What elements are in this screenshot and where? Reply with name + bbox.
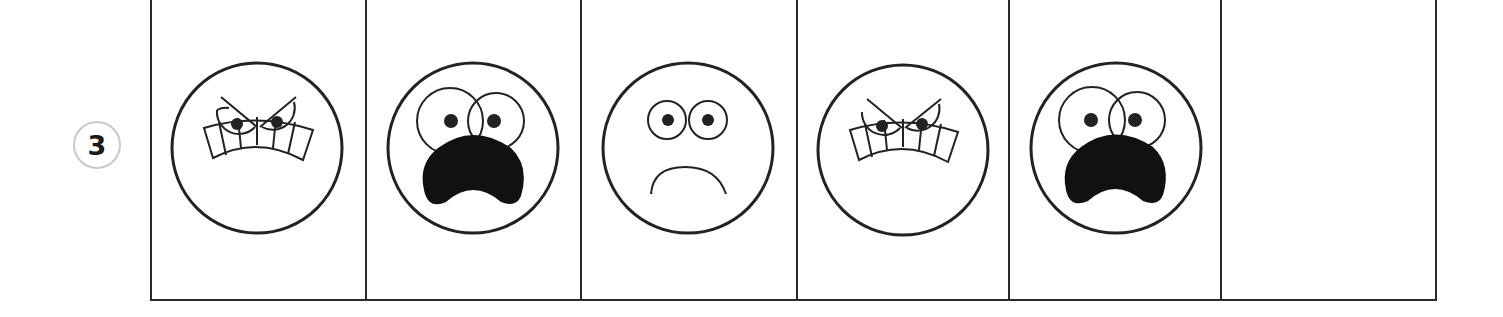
sequence-cell-5 xyxy=(1009,0,1221,300)
sequence-cell-3 xyxy=(581,0,797,300)
cell-divider xyxy=(580,0,582,301)
angry-face-icon xyxy=(797,0,1009,300)
cell-divider xyxy=(150,0,152,301)
sad-face-icon xyxy=(581,0,797,300)
strip-bottom-border xyxy=(150,299,1437,301)
cell-divider xyxy=(796,0,798,301)
sequence-cell-4 xyxy=(797,0,1009,300)
cell-divider xyxy=(365,0,367,301)
cell-divider xyxy=(1435,0,1437,301)
sequence-cell-2 xyxy=(366,0,581,300)
sequence-cell-6-empty[interactable] xyxy=(1221,0,1436,300)
scared-face-icon xyxy=(1009,0,1221,300)
emotion-sequence-strip xyxy=(0,0,1503,317)
scared-face-icon xyxy=(366,0,581,300)
cell-divider xyxy=(1220,0,1222,301)
sequence-cell-1 xyxy=(151,0,366,300)
angry-face-icon xyxy=(151,0,366,300)
cell-divider xyxy=(1008,0,1010,301)
